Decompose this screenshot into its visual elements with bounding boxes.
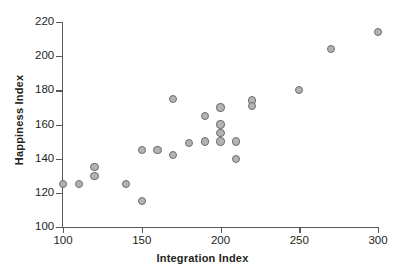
x-axis-tick-label: 100: [43, 235, 83, 247]
data-point: [201, 112, 209, 120]
y-axis-tick: [56, 56, 62, 57]
x-axis-tick-label: 200: [201, 235, 241, 247]
data-point: [232, 137, 240, 145]
scatter-chart: 100120140160180200220 100150200250300 Ha…: [0, 0, 405, 277]
y-axis-tick-label: 100: [18, 221, 54, 233]
x-axis-tick: [221, 227, 222, 233]
data-point: [138, 146, 146, 154]
y-axis-tick: [56, 90, 62, 91]
y-axis-tick: [56, 22, 62, 23]
y-axis-tick: [56, 193, 62, 194]
y-axis-tick-label: 220: [18, 16, 54, 28]
x-axis-tick-label: 150: [122, 235, 162, 247]
data-point: [201, 137, 209, 145]
data-point: [90, 172, 98, 180]
data-point: [216, 137, 224, 145]
y-axis-tick: [56, 227, 62, 228]
data-point: [248, 102, 256, 110]
x-axis-tick: [63, 227, 64, 233]
data-point: [374, 28, 382, 36]
x-axis-tick: [378, 227, 379, 233]
x-axis-title: Integration Index: [0, 252, 405, 264]
data-point: [90, 163, 98, 171]
x-axis-tick-label: 250: [279, 235, 319, 247]
x-axis-tick: [142, 227, 143, 233]
y-axis-title: Happiness Index: [13, 40, 25, 200]
data-point: [216, 103, 224, 111]
x-axis-tick: [299, 227, 300, 233]
data-point: [216, 129, 224, 137]
x-axis-tick-label: 300: [358, 235, 398, 247]
data-point: [216, 120, 224, 128]
y-axis-tick: [56, 159, 62, 160]
data-point: [232, 155, 240, 163]
y-axis-tick: [56, 125, 62, 126]
data-point: [153, 146, 161, 154]
